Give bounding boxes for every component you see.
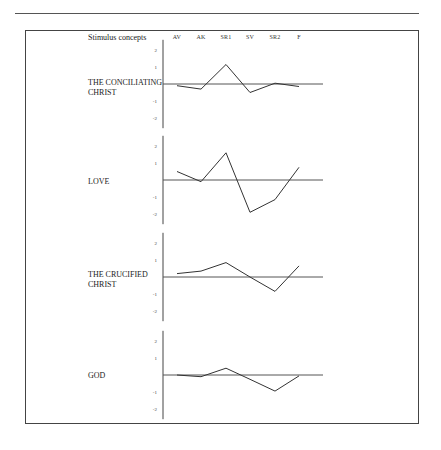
y-tick-label: 2 bbox=[155, 48, 158, 53]
y-tick-label: 1 bbox=[155, 65, 158, 70]
y-tick-label: 1 bbox=[155, 161, 158, 166]
y-tick-label: -2 bbox=[153, 309, 158, 314]
y-tick-label: 2 bbox=[155, 339, 158, 344]
y-tick-label: -1 bbox=[153, 292, 158, 297]
series-line bbox=[177, 153, 299, 213]
y-tick-label: 1 bbox=[155, 356, 158, 361]
y-tick-label: 2 bbox=[155, 241, 158, 246]
y-tick-label: -1 bbox=[153, 99, 158, 104]
y-tick-label: -2 bbox=[153, 212, 158, 217]
y-tick-label: -1 bbox=[153, 195, 158, 200]
y-tick-label: -1 bbox=[153, 390, 158, 395]
series-line bbox=[177, 65, 299, 93]
y-tick-label: 2 bbox=[155, 144, 158, 149]
line-plots: 21-1-221-1-221-1-221-1-2 bbox=[0, 0, 441, 450]
series-line bbox=[177, 368, 299, 391]
y-tick-label: 1 bbox=[155, 258, 158, 263]
y-tick-label: -2 bbox=[153, 116, 158, 121]
y-tick-label: -2 bbox=[153, 407, 158, 412]
